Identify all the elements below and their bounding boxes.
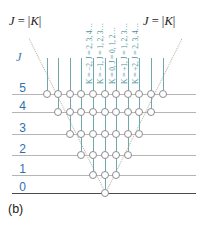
state-circle-j3-k-1: [89, 130, 97, 138]
figure-caption: (b): [8, 202, 23, 216]
state-circle-j2-k-2: [77, 151, 85, 159]
state-circle-j1-k-1: [89, 171, 97, 179]
state-circle-j4-k-3: [66, 108, 74, 116]
state-circle-j3-k-2: [77, 130, 85, 138]
state-circle-j4-k1: [112, 108, 120, 116]
state-circle-j5-k1: [112, 90, 120, 98]
state-circle-j5-k-1: [89, 90, 97, 98]
state-circle-j1-k0: [101, 171, 109, 179]
state-circle-j1-k1: [112, 171, 120, 179]
j-tick-label-2: 2: [12, 142, 26, 156]
state-circle-j4-k4: [147, 108, 155, 116]
state-circle-j0-k0: [101, 189, 109, 197]
j-tick-label-0: 0: [12, 180, 26, 194]
k-line-k5: [163, 58, 164, 90]
state-circle-j5-k5: [159, 90, 167, 98]
k-line-k-4: [58, 58, 59, 108]
state-circle-j4-k-4: [54, 108, 62, 116]
state-circle-j4-k-1: [89, 108, 97, 116]
state-circle-j5-k4: [147, 90, 155, 98]
j-tick-label-1: 1: [12, 162, 26, 176]
boundary-label-right: J = |K|: [143, 14, 175, 29]
state-circle-j2-k1: [112, 151, 120, 159]
state-circle-j3-k1: [112, 130, 120, 138]
boundary-label-left: J = |K|: [9, 14, 41, 29]
state-circle-j4-k3: [135, 108, 143, 116]
state-circle-j5-k-2: [77, 90, 85, 98]
state-circle-j2-k-1: [89, 151, 97, 159]
state-circle-j3-k3: [135, 130, 143, 138]
state-circle-j5-k0: [101, 90, 109, 98]
state-circle-j5-k-5: [43, 90, 51, 98]
j-tick-label-3: 3: [12, 121, 26, 135]
state-circle-j5-k-4: [54, 90, 62, 98]
state-circle-j4-k2: [124, 108, 132, 116]
k-line-k4: [151, 58, 152, 108]
state-circle-j3-k0: [101, 130, 109, 138]
state-circle-j3-k2: [124, 130, 132, 138]
state-circle-j2-k0: [101, 151, 109, 159]
k-line-k-5: [47, 58, 48, 90]
state-circle-j5-k-3: [66, 90, 74, 98]
j-tick-label-5: 5: [12, 81, 26, 95]
state-circle-j4-k-2: [77, 108, 85, 116]
state-circle-j5-k3: [135, 90, 143, 98]
axis-label-j: J: [16, 50, 22, 65]
j-tick-label-4: 4: [12, 99, 26, 113]
state-circle-j3-k-3: [66, 130, 74, 138]
state-circle-j4-k0: [101, 108, 109, 116]
state-circle-j5-k2: [124, 90, 132, 98]
energy-level-diagram: J = |K| J = |K| J K = −2, J = 2, 3, 4…K …: [0, 0, 204, 230]
state-circle-j2-k2: [124, 151, 132, 159]
